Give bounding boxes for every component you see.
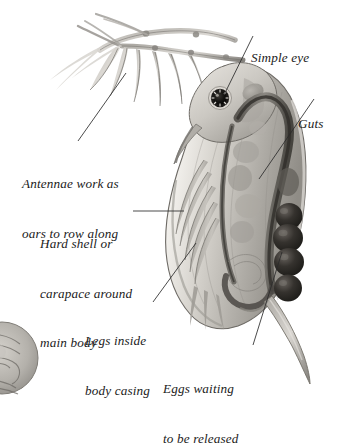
egg-4 (274, 275, 302, 302)
label-carapace-line-0: Hard shell or (40, 236, 132, 253)
egg-2 (273, 224, 303, 252)
label-legs-line-1: body casing (85, 383, 150, 400)
cropped-specimen (0, 322, 38, 394)
simple-eye (209, 87, 232, 110)
label-simple-eye-line-0: Simple eye (251, 50, 309, 67)
label-legs-line-0: Legs inside (85, 333, 150, 350)
label-antennae-line-0: Antennae work as (22, 176, 119, 193)
label-eggs-line-1: to be released (163, 431, 239, 447)
label-guts: Guts (298, 83, 324, 166)
label-legs: Legs inside body casing (85, 300, 150, 432)
label-guts-line-0: Guts (298, 116, 324, 133)
label-eggs: Eggs waiting to be released (163, 348, 239, 447)
label-eggs-line-0: Eggs waiting (163, 381, 239, 398)
leader-antennae (78, 73, 126, 141)
